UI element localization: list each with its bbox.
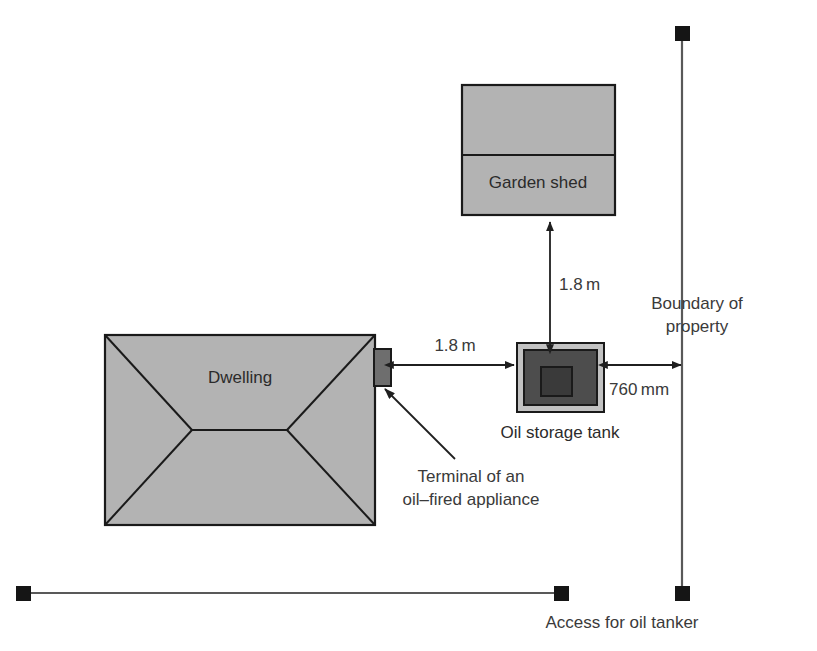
boundary-marker-bottom-right: [675, 586, 690, 601]
dimension-label-tank-to-boundary: 760 mm: [609, 378, 669, 401]
garden-shed-outline: [462, 85, 615, 215]
terminal-label-line2: oil–fired appliance: [402, 488, 539, 511]
oil-storage-tank-shape: [517, 343, 604, 412]
boundary-label-line1: Boundary of: [651, 292, 743, 315]
oil-tank-separation-diagram: Dwelling Garden shed Oil storage tank 1.…: [0, 0, 817, 651]
boundary-marker-bottom-middle: [554, 586, 569, 601]
dimension-label-shed-to-tank: 1.8 m: [559, 273, 600, 296]
oil-tank-inner-detail: [541, 367, 572, 396]
dwelling-shape: [105, 335, 375, 525]
dwelling-label: Dwelling: [208, 366, 272, 389]
terminal-block: [374, 349, 391, 386]
access-for-oil-tanker-label: Access for oil tanker: [545, 611, 698, 634]
terminal-leader-line: [385, 389, 455, 459]
garden-shed-shape: [462, 85, 615, 215]
oil-storage-tank-label: Oil storage tank: [500, 421, 619, 444]
boundary-label-line2: property: [666, 315, 728, 338]
dimension-label-dwelling-to-tank: 1.8 m: [434, 334, 475, 357]
boundary-marker-top-right: [675, 26, 690, 41]
boundary-marker-bottom-left: [16, 586, 31, 601]
terminal-label-line1: Terminal of an: [418, 465, 525, 488]
garden-shed-label: Garden shed: [489, 171, 587, 194]
